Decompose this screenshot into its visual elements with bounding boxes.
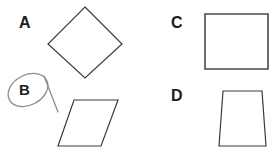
option-label-b[interactable]: B <box>19 82 30 97</box>
option-label-a[interactable]: A <box>19 15 31 31</box>
hand-drawn-tail-stroke <box>44 76 58 112</box>
quadrilateral-worksheet: A B C D <box>0 0 274 159</box>
shape-d-trapezoid[interactable] <box>219 91 266 146</box>
option-label-d[interactable]: D <box>171 88 183 104</box>
shape-b-parallelogram[interactable] <box>58 100 118 146</box>
shape-c-rectangle-svg[interactable] <box>0 0 274 159</box>
shape-a-diamond[interactable] <box>48 7 122 78</box>
shape-a-diamond-svg[interactable] <box>0 0 274 159</box>
shape-c-rectangle[interactable] <box>205 14 268 69</box>
option-label-c[interactable]: C <box>171 15 183 31</box>
shape-b-parallelogram-svg[interactable] <box>0 0 274 159</box>
shape-d-trapezoid-svg[interactable] <box>0 0 274 159</box>
selection-annotation-svg <box>0 0 274 159</box>
